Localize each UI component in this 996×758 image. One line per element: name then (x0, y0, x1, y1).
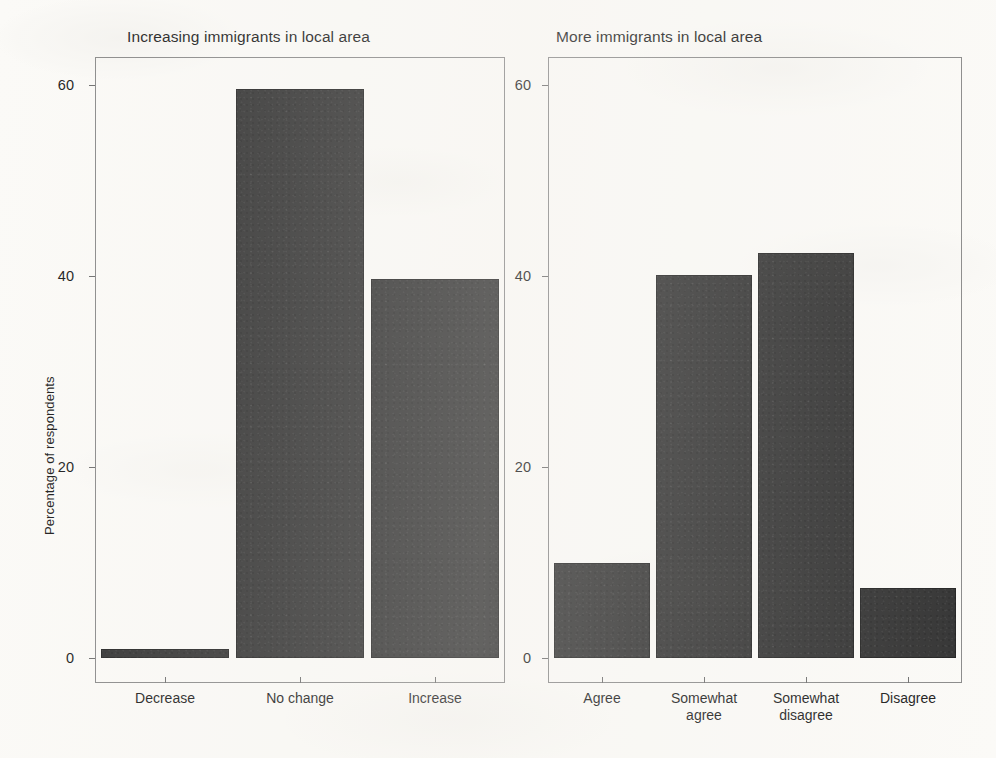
bar-agree (554, 563, 650, 659)
bar-increase (371, 279, 499, 658)
bar-decrease (101, 649, 229, 659)
x-tick-mark-disagree (908, 677, 909, 683)
x-tick-mark-no-change (300, 677, 301, 683)
bar-disagree (860, 588, 956, 658)
y-tick-label-0: 0 (38, 650, 74, 666)
bar-somewhat-disagree (758, 253, 854, 658)
y-tick-label-60: 60 (38, 77, 74, 93)
x-tick-mark-decrease (165, 677, 166, 683)
panel-title-right: More immigrants in local area (556, 28, 762, 46)
y-tick-label-right-0: 0 (495, 650, 531, 666)
x-tick-label-somewhat-disagree-line2: disagree (746, 707, 866, 724)
x-tick-label-decrease: Decrease (105, 690, 225, 707)
y-tick-label-right-60: 60 (495, 77, 531, 93)
y-tick-label-right-20: 20 (495, 459, 531, 475)
x-tick-mark-agree (602, 677, 603, 683)
x-tick-mark-increase (435, 677, 436, 683)
y-axis-label: Percentage of respondents (42, 376, 57, 535)
y-tick-label-40: 40 (38, 268, 74, 284)
panel-title-left: Increasing immigrants in local area (127, 28, 370, 46)
x-tick-mark-somewhat-agree (704, 677, 705, 683)
y-tick-label-right-40: 40 (495, 268, 531, 284)
bar-no-change (236, 89, 364, 658)
x-tick-label-disagree: Disagree (848, 690, 968, 707)
bar-somewhat-agree (656, 275, 752, 658)
x-tick-mark-somewhat-disagree (806, 677, 807, 683)
x-tick-label-no-change: No change (240, 690, 360, 707)
figure-two-panel-bar-charts: Increasing immigrants in local area Perc… (0, 0, 996, 758)
x-tick-label-increase: Increase (375, 690, 495, 707)
y-tick-label-20: 20 (38, 459, 74, 475)
x-tick-label-disagree-line1: Disagree (848, 690, 968, 707)
